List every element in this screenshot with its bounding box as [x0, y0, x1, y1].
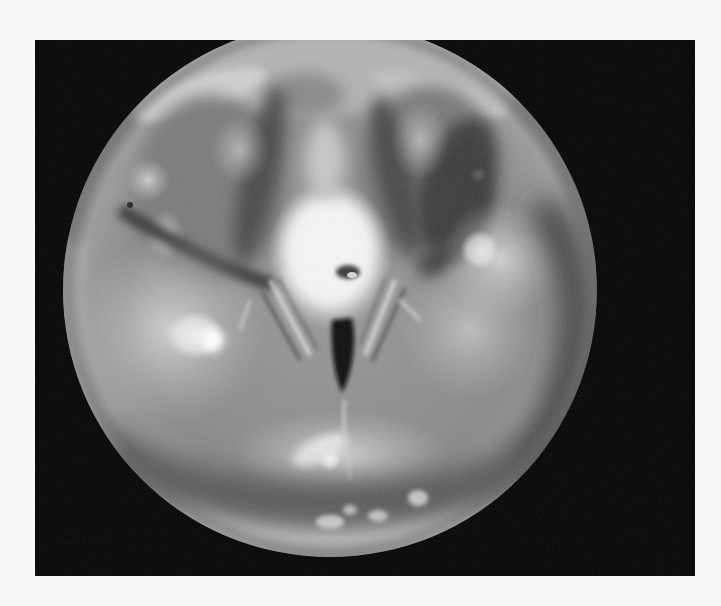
endoscopy-photo	[0, 0, 721, 606]
image-canvas	[0, 0, 721, 606]
scope-field	[63, 23, 597, 557]
